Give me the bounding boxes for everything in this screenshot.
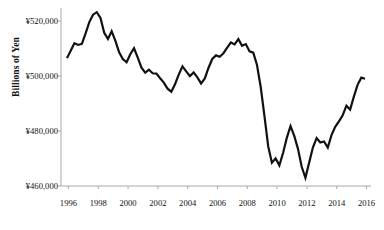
line-chart-plot [0, 0, 384, 230]
chart-root: Billions of Yen ¥460,000¥480,000¥500,000… [0, 0, 384, 230]
data-series-line [67, 12, 365, 178]
